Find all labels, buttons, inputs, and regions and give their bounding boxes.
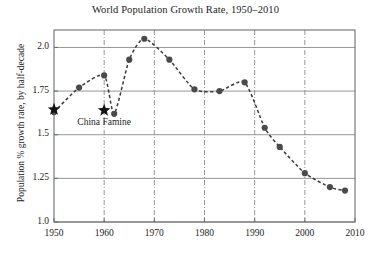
series-path — [54, 39, 345, 191]
x-tick-label: 2000 — [285, 228, 325, 238]
chart-figure: World Population Growth Rate, 1950–2010 … — [0, 0, 371, 256]
x-tick-label: 1990 — [235, 228, 275, 238]
data-point-1973 — [166, 57, 172, 63]
plot-area — [0, 0, 371, 256]
data-point-1965 — [126, 57, 132, 63]
data-point-1983 — [216, 88, 222, 94]
data-point-1988 — [242, 79, 248, 85]
data-point-1992 — [262, 125, 268, 131]
data-points — [51, 36, 348, 194]
y-tick-label: 2.0 — [15, 41, 49, 51]
x-tick-label: 2010 — [335, 228, 371, 238]
china-famine-annotation-label: China Famine — [44, 117, 164, 127]
data-series-line — [54, 39, 345, 191]
data-point-1978 — [191, 86, 197, 92]
data-point-1968 — [141, 36, 147, 42]
data-point-1960 — [101, 72, 107, 78]
x-tick-label: 1950 — [34, 228, 74, 238]
data-point-1955 — [76, 85, 82, 91]
x-tick-label: 1960 — [84, 228, 124, 238]
data-point-2008 — [342, 187, 348, 193]
data-point-2005 — [327, 184, 333, 190]
data-point-2000 — [302, 170, 308, 176]
y-tick-label: 1.5 — [15, 128, 49, 138]
y-tick-label: 1.0 — [15, 216, 49, 226]
data-point-1995 — [277, 144, 283, 150]
y-tick-label: 1.75 — [15, 85, 49, 95]
annotation-markers — [48, 103, 111, 116]
x-tick-label: 1980 — [185, 228, 225, 238]
y-tick-label: 1.25 — [15, 172, 49, 182]
x-tick-label: 1970 — [134, 228, 174, 238]
